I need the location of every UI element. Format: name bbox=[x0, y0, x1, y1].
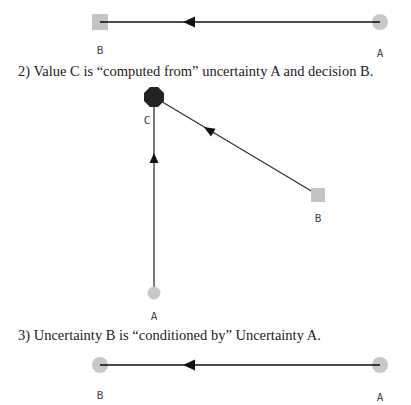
caption-diagram-2: 2) Value C is “computed from” uncertaint… bbox=[18, 63, 373, 80]
influence-diagrams-canvas bbox=[0, 0, 411, 405]
diagram-2 bbox=[144, 87, 325, 300]
arrowhead-up-icon bbox=[150, 153, 159, 163]
caption-diagram-3: 3) Uncertainty B is “conditioned by” Unc… bbox=[18, 327, 321, 344]
diagram-1 bbox=[92, 14, 388, 30]
node-label-a: A bbox=[377, 47, 384, 60]
node-label-b: B bbox=[315, 212, 322, 225]
diagram-3 bbox=[92, 357, 388, 373]
node-label-c: C bbox=[144, 114, 151, 127]
node-label-a: A bbox=[151, 310, 158, 323]
edge-b-to-c bbox=[154, 97, 318, 195]
value-node-c bbox=[144, 87, 164, 107]
uncertainty-node-a bbox=[148, 287, 161, 300]
node-label-a: A bbox=[377, 391, 384, 404]
arrowhead-left-icon bbox=[183, 17, 195, 28]
node-label-b: B bbox=[97, 44, 104, 57]
arrowhead-left-icon bbox=[183, 360, 195, 371]
node-label-b: B bbox=[97, 389, 104, 402]
arrowhead-diagonal-icon bbox=[202, 123, 216, 136]
decision-node-b bbox=[311, 188, 325, 202]
